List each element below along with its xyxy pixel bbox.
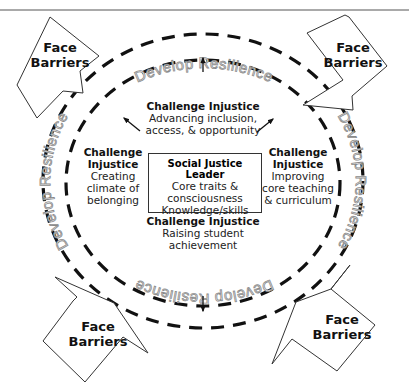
center-line: consciousness bbox=[149, 192, 261, 204]
challenge-line: achievement bbox=[140, 239, 266, 251]
challenge-line: access, & opportunity bbox=[135, 124, 271, 136]
challenge-line: Advancing inclusion, bbox=[135, 112, 271, 124]
barrier-label-top-right: Face Barriers bbox=[318, 41, 388, 70]
challenge-line: Creating bbox=[78, 170, 148, 182]
challenge-title: Challenge Injustice bbox=[140, 215, 266, 227]
ring-label-top: Develop Resilience bbox=[132, 54, 276, 85]
barrier-word-1: Face bbox=[63, 320, 133, 335]
barrier-label-bottom-left: Face Barriers bbox=[63, 320, 133, 349]
barrier-word-2: Barriers bbox=[318, 56, 388, 71]
challenge-top: Challenge Injustice Advancing inclusion,… bbox=[135, 100, 271, 136]
resilience-diagram: Develop Resilience Develop Resilience De… bbox=[0, 0, 409, 388]
challenge-title: Challenge Injustice bbox=[135, 100, 271, 112]
barrier-label-top-left: Face Barriers bbox=[30, 41, 90, 70]
barrier-word-1: Face bbox=[30, 41, 90, 56]
barrier-word-1: Face bbox=[307, 313, 377, 328]
center-title: Social Justice Leader bbox=[149, 158, 261, 180]
challenge-title: Challenge bbox=[258, 146, 338, 158]
challenge-line: climate of bbox=[78, 182, 148, 194]
challenge-line: & curriculum bbox=[258, 194, 338, 206]
barrier-word-1: Face bbox=[318, 41, 388, 56]
social-justice-leader-box: Social Justice Leader Core traits & cons… bbox=[148, 153, 262, 213]
barrier-label-bottom-right: Face Barriers bbox=[307, 313, 377, 342]
challenge-line: belonging bbox=[78, 194, 148, 206]
barrier-word-2: Barriers bbox=[30, 56, 90, 71]
ring-label-left: Develop Resilience bbox=[36, 109, 71, 253]
challenge-title: Injustice bbox=[78, 158, 148, 170]
challenge-line: Raising student bbox=[140, 227, 266, 239]
center-line: Core traits & bbox=[149, 180, 261, 192]
challenge-left: Challenge Injustice Creating climate of … bbox=[78, 146, 148, 206]
challenge-title: Injustice bbox=[258, 158, 338, 170]
challenge-right: Challenge Injustice Improving core teach… bbox=[258, 146, 338, 206]
challenge-title: Challenge bbox=[78, 146, 148, 158]
challenge-line: Improving bbox=[258, 170, 338, 182]
challenge-bottom: Challenge Injustice Raising student achi… bbox=[140, 215, 266, 251]
challenge-line: core teaching bbox=[258, 182, 338, 194]
barrier-word-2: Barriers bbox=[307, 328, 377, 343]
ring-label-bottom: Develop Resilience bbox=[132, 277, 276, 308]
barrier-word-2: Barriers bbox=[63, 335, 133, 350]
